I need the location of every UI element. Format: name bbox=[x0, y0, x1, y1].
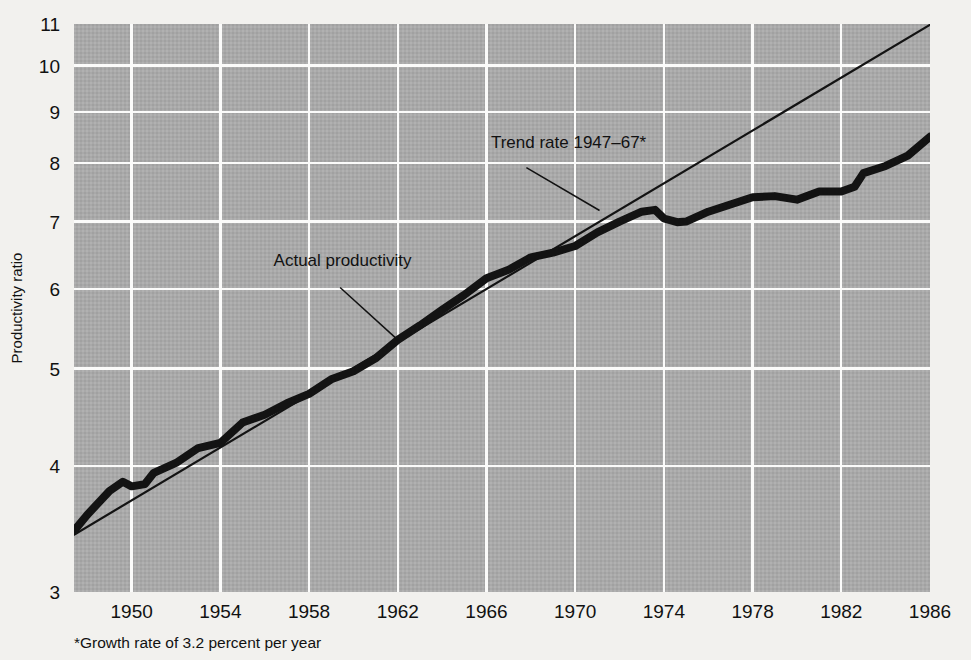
y-axis-title: Productivity ratio bbox=[8, 253, 25, 364]
annotation-label-actual-productivity: Actual productivity bbox=[274, 251, 412, 270]
x-tick-1978: 1978 bbox=[731, 601, 773, 622]
y-tick-9: 9 bbox=[49, 102, 60, 123]
chart-footnote: *Growth rate of 3.2 percent per year bbox=[74, 634, 321, 651]
productivity-chart-figure: 34567891011 1950195419581962196619701974… bbox=[0, 0, 971, 660]
x-tick-1958: 1958 bbox=[288, 601, 330, 622]
y-tick-4: 4 bbox=[49, 456, 60, 477]
y-tick-7: 7 bbox=[49, 212, 60, 233]
annotation-label-trend-rate: Trend rate 1947–67* bbox=[491, 133, 647, 152]
chart-canvas: 34567891011 1950195419581962196619701974… bbox=[0, 0, 971, 660]
x-tick-1962: 1962 bbox=[377, 601, 419, 622]
y-tick-10: 10 bbox=[39, 56, 60, 77]
plot-area-background bbox=[74, 24, 930, 592]
x-tick-1974: 1974 bbox=[643, 601, 686, 622]
x-tick-1954: 1954 bbox=[199, 601, 242, 622]
x-tick-1982: 1982 bbox=[820, 601, 862, 622]
x-tick-1966: 1966 bbox=[465, 601, 507, 622]
y-tick-11: 11 bbox=[40, 14, 60, 35]
x-tick-1970: 1970 bbox=[554, 601, 596, 622]
y-tick-8: 8 bbox=[49, 153, 60, 174]
y-tick-5: 5 bbox=[49, 359, 60, 380]
y-tick-3: 3 bbox=[49, 582, 60, 603]
x-tick-1986: 1986 bbox=[909, 601, 951, 622]
x-tick-1950: 1950 bbox=[111, 601, 153, 622]
y-tick-6: 6 bbox=[49, 279, 60, 300]
